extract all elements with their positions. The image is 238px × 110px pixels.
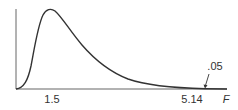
- f-distribution-diagram: 1.5 5.14 F .05: [0, 0, 238, 110]
- density-curve: [16, 9, 227, 89]
- tick-label-5-14: 5.14: [181, 93, 202, 105]
- tick-label-1-5: 1.5: [44, 93, 59, 105]
- tail-area-label: .05: [207, 60, 222, 72]
- arrowhead-icon: [204, 85, 208, 89]
- axis-label-f: F: [223, 93, 231, 105]
